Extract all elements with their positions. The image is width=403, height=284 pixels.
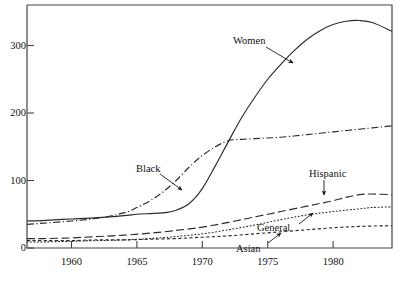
x-tick-label: 1975: [246, 256, 290, 267]
y-tick-label: 0: [0, 242, 26, 253]
y-tick-label: 100: [0, 175, 26, 186]
cropped-title-remnant: [30, 0, 150, 1]
data-series-group: [27, 20, 392, 242]
x-tick-label: 1970: [180, 256, 224, 267]
y-tick-label: 200: [0, 107, 26, 118]
x-tick-label: 1980: [311, 256, 355, 267]
y-tick-label: 300: [0, 40, 26, 51]
asian-label: Asian: [236, 243, 261, 254]
y-axis-ticks: [27, 46, 34, 249]
chart-figure: 0100200300 19601965197019751980 WomenBla…: [0, 0, 403, 284]
series-line-hispanic: [27, 194, 392, 239]
hispanic-label: Hispanic: [309, 168, 346, 179]
asian-arrow: [268, 233, 281, 243]
series-line-general: [27, 207, 392, 242]
x-axis-ticks: [71, 241, 333, 248]
women-label: Women: [233, 35, 265, 46]
black-arrow: [160, 174, 182, 190]
x-tick-label: 1965: [115, 256, 159, 267]
black-label: Black: [136, 163, 161, 174]
general-label: General: [257, 222, 290, 233]
x-tick-label: 1960: [49, 256, 93, 267]
series-line-women: [27, 20, 392, 221]
annotation-arrows: [160, 47, 324, 243]
line-chart-canvas: [0, 0, 403, 284]
